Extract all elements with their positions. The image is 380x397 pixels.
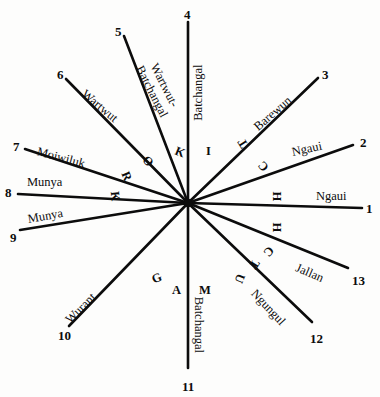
ring-letter-12: H bbox=[271, 191, 284, 201]
ring-letter-11: H bbox=[271, 222, 284, 232]
ray-number-12: 12 bbox=[310, 332, 323, 345]
ray-label-1: Ngaui bbox=[316, 190, 347, 204]
ray-number-2: 2 bbox=[360, 136, 367, 149]
ray-label-4: Batchangal bbox=[192, 65, 206, 121]
ring-letter-7: M bbox=[199, 284, 211, 297]
ring-letter-4: K bbox=[108, 191, 121, 202]
ray-number-4: 4 bbox=[184, 8, 191, 21]
ray-number-11: 11 bbox=[182, 380, 194, 393]
ray-line-3 bbox=[188, 78, 318, 203]
ray-line-1 bbox=[188, 203, 362, 208]
ray-number-6: 6 bbox=[57, 68, 64, 81]
ray-number-5: 5 bbox=[115, 25, 122, 38]
ring-letter-6: A bbox=[172, 284, 181, 297]
ray-label-11: Batchangal bbox=[191, 297, 205, 353]
ray-label-8: Munya bbox=[27, 176, 62, 190]
ring-letter-0: I bbox=[206, 145, 211, 158]
ray-number-13: 13 bbox=[352, 274, 365, 287]
ray-line-13 bbox=[188, 203, 348, 268]
ray-number-3: 3 bbox=[322, 68, 329, 81]
ray-number-8: 8 bbox=[5, 186, 12, 199]
ray-number-7: 7 bbox=[13, 140, 20, 153]
ray-number-1: 1 bbox=[366, 202, 373, 215]
ray-number-9: 9 bbox=[10, 231, 17, 244]
radial-direction-diagram: 12345678910111213 NgauiNgauiBarewunBatch… bbox=[0, 0, 380, 397]
ray-number-10: 10 bbox=[58, 329, 71, 342]
center-hub bbox=[184, 199, 192, 207]
